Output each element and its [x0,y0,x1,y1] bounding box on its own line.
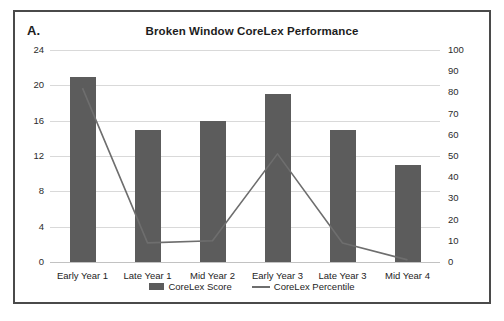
legend-bar-swatch-icon [149,283,164,290]
y-axis-right-tick-label: 100 [448,45,478,55]
y-axis-right-tick-label: 70 [448,109,478,119]
chart-figure: A. Broken Window CoreLex Performance 048… [13,10,491,304]
x-axis-category-label: Late Year 1 [123,270,171,281]
chart-legend: CoreLex ScoreCoreLex Percentile [15,281,489,292]
legend-label: CoreLex Score [168,281,231,292]
y-axis-left-tick-label: 0 [16,257,44,267]
line-path [83,88,408,260]
y-axis-right-tick-label: 90 [448,66,478,76]
y-axis-left-tick-label: 24 [16,45,44,55]
x-axis-category-label: Mid Year 2 [190,270,235,281]
y-axis-right-tick-label: 0 [448,257,478,267]
x-axis-category-label: Early Year 1 [57,270,108,281]
gridline [50,262,440,263]
y-axis-left-tick-label: 20 [16,80,44,90]
y-axis-right-tick-label: 80 [448,87,478,97]
legend-item: CoreLex Score [149,281,231,292]
y-axis-left-tick-label: 8 [16,186,44,196]
legend-item: CoreLex Percentile [252,281,355,292]
y-axis-right-tick-label: 10 [448,236,478,246]
y-axis-left-tick-label: 16 [16,116,44,126]
x-axis-category-label: Early Year 3 [252,270,303,281]
legend-label: CoreLex Percentile [274,281,355,292]
y-axis-left-tick-label: 12 [16,151,44,161]
y-axis-right-tick-label: 50 [448,151,478,161]
legend-line-swatch-icon [252,286,270,288]
y-axis-right-tick-label: 40 [448,172,478,182]
x-axis-category-label: Mid Year 4 [385,270,430,281]
plot-area: 04812162024 0102030405060708090100 Early… [50,50,440,262]
y-axis-right-tick-label: 20 [448,215,478,225]
line-series-corelex-percentile [50,50,440,262]
y-axis-right-tick-label: 60 [448,130,478,140]
y-axis-right-tick-label: 30 [448,193,478,203]
y-axis-left-tick-label: 4 [16,222,44,232]
chart-title: Broken Window CoreLex Performance [15,25,489,37]
x-axis-category-label: Late Year 3 [318,270,366,281]
